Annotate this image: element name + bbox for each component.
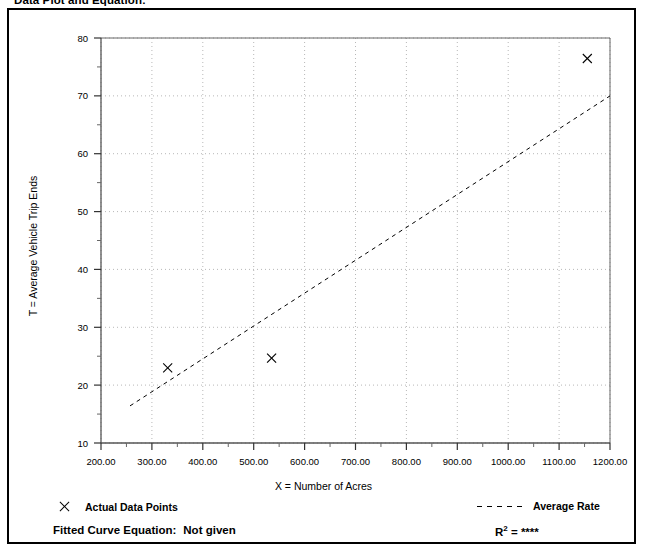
x-tick-label: 1000.00 [491,456,525,467]
x-tick-labels: 200.00 300.00 400.00 500.00 600.00 700.0… [86,456,627,467]
x-axis-title: X = Number of Acres [9,480,638,492]
x-tick-label: 700.00 [341,456,370,467]
y-tick-label: 70 [77,90,88,101]
x-tick-label: 400.00 [188,456,217,467]
y-tick-label: 20 [77,380,88,391]
legend-label-actual-data-points: Actual Data Points [85,501,178,513]
y-tick-label: 50 [77,206,88,217]
chart-region: 80 70 60 50 40 30 20 10 200.00 300.00 40… [9,10,638,495]
y-tick-label: 40 [77,264,88,275]
scatter-plot: 80 70 60 50 40 30 20 10 200.00 300.00 40… [9,10,638,495]
legend-item-actual-data-points: Actual Data Points [57,500,178,514]
r-squared-value: R2 = **** [495,524,539,538]
data-point-marker [163,363,172,372]
x-tick-label: 1200.00 [593,456,627,467]
data-point-marker [267,354,276,363]
grid-vertical [101,38,610,443]
y-tick-labels: 80 70 60 50 40 30 20 10 [77,33,88,449]
x-tick-label: 600.00 [290,456,319,467]
chart-legend: Actual Data Points Average Rate [9,496,638,522]
x-tick-label: 200.00 [86,456,115,467]
x-tick-label: 900.00 [443,456,472,467]
r-squared-result: **** [521,526,539,538]
r-squared-equals: = [508,526,521,538]
fitted-curve-label: Fitted Curve Equation: [53,524,176,536]
fitted-curve-value: Not given [183,524,235,536]
y-tick-label: 10 [77,438,88,449]
chart-panel: 80 70 60 50 40 30 20 10 200.00 300.00 40… [7,8,636,544]
x-tick-label: 800.00 [392,456,421,467]
legend-item-average-rate: Average Rate [477,500,600,512]
x-marker-icon [57,500,73,514]
legend-label-average-rate: Average Rate [533,500,600,512]
y-tick-label: 80 [77,33,88,44]
dashed-line-icon [477,506,523,507]
data-point-marker [583,54,592,63]
y-tick-label: 60 [77,148,88,159]
y-tick-label: 30 [77,322,88,333]
data-point-markers [163,54,592,372]
x-tick-label: 300.00 [137,456,166,467]
y-axis-title: T = Average Vehicle Trip Ends [27,156,39,336]
x-tick-label: 1100.00 [542,456,576,467]
x-tick-label: 500.00 [239,456,268,467]
page-title: Data Plot and Equation: [14,0,146,6]
average-rate-line [130,96,610,406]
fitted-curve-equation: Fitted Curve Equation:Not given [53,524,236,536]
equation-row: Fitted Curve Equation:Not given R2 = ***… [9,522,638,546]
